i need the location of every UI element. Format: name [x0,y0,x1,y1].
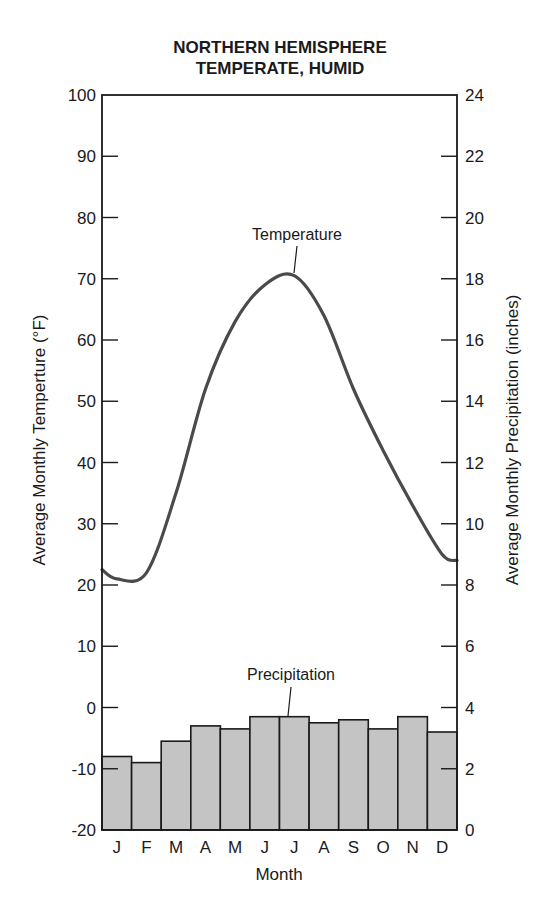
precipitation-bar [132,763,162,830]
climate-chart: 1009080706050403020100-10-20 24222018161… [0,0,555,918]
precipitation-bar [102,757,132,831]
precipitation-leader-line [288,687,291,716]
right-tick-label: 20 [465,209,484,228]
y-right-axis-title: Average Monthly Precipitation (inches) [503,295,522,586]
precipitation-bar [339,720,369,830]
precipitation-bar [368,729,398,830]
month-label: J [290,838,299,857]
temperature-line [102,274,457,581]
precipitation-bar [191,726,221,830]
right-tick-label: 0 [465,821,474,840]
y-left-axis-title: Average Monthly Temperture (°F) [30,315,49,566]
month-label: D [436,838,448,857]
left-tick-label: 50 [77,392,96,411]
left-tick-label: -20 [71,821,96,840]
month-label: A [318,838,330,857]
temperature-annotation: Temperature [252,226,342,243]
left-tick-label: 30 [77,515,96,534]
month-label: J [113,838,122,857]
month-axis-labels: JFMAMJJASOND [113,838,449,857]
month-label: M [228,838,242,857]
precipitation-bar [309,723,339,830]
precipitation-bar [398,717,428,830]
left-tick-label: -10 [71,760,96,779]
left-axis-ticks: 1009080706050403020100-10-20 [68,86,118,840]
left-tick-label: 20 [77,576,96,595]
right-tick-label: 2 [465,760,474,779]
right-tick-label: 24 [465,86,484,105]
left-tick-label: 0 [87,699,96,718]
right-tick-label: 4 [465,699,474,718]
precipitation-bar [161,741,191,830]
right-tick-label: 10 [465,515,484,534]
right-tick-label: 6 [465,637,474,656]
right-tick-label: 16 [465,331,484,350]
precipitation-bar [280,717,310,830]
left-tick-label: 80 [77,209,96,228]
right-tick-label: 8 [465,576,474,595]
precipitation-bar [220,729,250,830]
x-axis-title: Month [255,865,302,884]
precipitation-bar [427,732,457,830]
left-tick-label: 70 [77,270,96,289]
temperature-leader-line [294,246,297,273]
month-label: J [260,838,269,857]
precipitation-bars [102,717,457,830]
right-tick-label: 12 [465,454,484,473]
right-axis-ticks: 242220181614121086420 [441,86,484,840]
month-label: A [200,838,212,857]
precipitation-annotation: Precipitation [247,666,335,683]
precipitation-bar [250,717,280,830]
left-tick-label: 60 [77,331,96,350]
left-tick-label: 10 [77,637,96,656]
month-label: F [141,838,151,857]
left-tick-label: 90 [77,147,96,166]
left-tick-label: 100 [68,86,96,105]
month-label: S [348,838,359,857]
month-label: O [376,838,389,857]
month-label: M [169,838,183,857]
right-tick-label: 22 [465,147,484,166]
right-tick-label: 18 [465,270,484,289]
right-tick-label: 14 [465,392,484,411]
month-label: N [406,838,418,857]
left-tick-label: 40 [77,454,96,473]
